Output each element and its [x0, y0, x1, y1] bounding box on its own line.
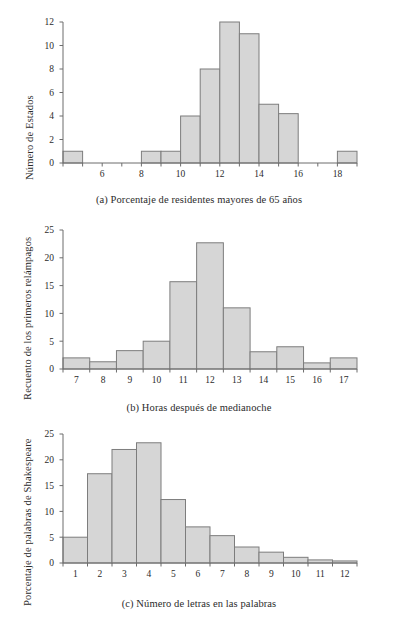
histogram-bar: [330, 358, 357, 369]
x-tick-label: 12: [340, 569, 350, 579]
x-tick-label: 16: [312, 375, 322, 385]
histogram-bar: [181, 116, 201, 163]
x-tick-label: 8: [139, 169, 144, 179]
histogram-bar: [137, 443, 162, 563]
histogram-bar: [259, 104, 279, 163]
histogram-bar: [143, 341, 170, 369]
x-tick-label: 11: [316, 569, 325, 579]
histogram-c: 0510152025123456789101112: [0, 420, 398, 592]
plot-area-c: Porcentaje de palabras de Shakespeare 05…: [0, 420, 398, 592]
x-tick-label: 3: [122, 569, 127, 579]
x-tick-label: 2: [97, 569, 102, 579]
x-tick-label: 6: [195, 569, 200, 579]
x-tick-label: 5: [171, 569, 176, 579]
y-tick-label: 25: [45, 429, 55, 439]
y-tick-label: 0: [49, 158, 54, 168]
x-tick-label: 14: [259, 375, 269, 385]
x-tick-label: 11: [179, 375, 188, 385]
plot-area-b: Recuento de los primeros relámpagos 0510…: [0, 212, 398, 398]
histogram-bar: [63, 537, 88, 563]
histogram-bar: [90, 362, 117, 369]
y-tick-label: 5: [49, 337, 54, 347]
y-tick-label: 0: [49, 364, 54, 374]
y-tick-label: 10: [45, 41, 55, 51]
x-tick-label: 9: [127, 375, 132, 385]
histogram-bar: [210, 536, 235, 563]
chart-panel-c: Porcentaje de palabras de Shakespeare 05…: [0, 420, 398, 620]
caption-b: (b) Horas después de medianoche: [0, 402, 398, 413]
histogram-bar: [161, 500, 186, 563]
histogram-bar: [161, 151, 181, 163]
y-tick-label: 20: [45, 253, 55, 263]
y-tick-label: 8: [49, 64, 54, 74]
histogram-bar: [197, 243, 224, 369]
x-tick-label: 17: [339, 375, 349, 385]
histogram-bar: [223, 308, 250, 369]
figure-page: Número de Estados 024681012681012141618 …: [0, 0, 398, 623]
histogram-bar: [116, 351, 143, 369]
plot-area-a: Número de Estados 024681012681012141618: [0, 0, 398, 192]
caption-c: (c) Número de letras en las palabras: [0, 598, 398, 609]
x-tick-label: 8: [244, 569, 249, 579]
x-tick-label: 16: [293, 169, 303, 179]
y-tick-label: 12: [45, 17, 55, 27]
x-tick-label: 15: [285, 375, 295, 385]
y-tick-label: 10: [45, 507, 55, 517]
y-tick-label: 0: [49, 558, 54, 568]
histogram-bar: [284, 557, 309, 563]
x-tick-label: 13: [232, 375, 242, 385]
histogram-bar: [200, 69, 220, 163]
y-tick-label: 4: [49, 111, 54, 121]
y-tick-label: 15: [45, 481, 55, 491]
x-tick-label: 4: [146, 569, 151, 579]
histogram-bar: [63, 151, 83, 163]
histogram-bar: [220, 22, 240, 163]
histogram-bar: [112, 449, 137, 563]
chart-panel-b: Recuento de los primeros relámpagos 0510…: [0, 212, 398, 420]
y-tick-label: 15: [45, 281, 55, 291]
y-tick-label: 25: [45, 225, 55, 235]
y-tick-label: 2: [49, 135, 54, 145]
caption-a: (a) Porcentaje de residentes mayores de …: [0, 194, 398, 205]
histogram-a: 024681012681012141618: [0, 0, 398, 192]
histogram-bar: [88, 474, 113, 563]
y-tick-label: 6: [49, 88, 54, 98]
histogram-bar: [239, 34, 259, 163]
y-tick-label: 5: [49, 533, 54, 543]
x-tick-label: 12: [215, 169, 225, 179]
x-tick-label: 14: [254, 169, 264, 179]
histogram-bar: [186, 527, 211, 563]
x-tick-label: 9: [269, 569, 274, 579]
histogram-bar: [250, 352, 277, 369]
histogram-bar: [304, 363, 331, 369]
histogram-bar: [277, 347, 304, 369]
histogram-bar: [259, 552, 284, 563]
x-tick-label: 1: [73, 569, 78, 579]
histogram-b: 05101520257891011121314151617: [0, 212, 398, 398]
x-tick-label: 12: [205, 375, 215, 385]
y-tick-label: 20: [45, 455, 55, 465]
histogram-bar: [141, 151, 161, 163]
histogram-bar: [279, 114, 299, 163]
histogram-bar: [235, 547, 260, 563]
histogram-bar: [337, 151, 357, 163]
x-tick-label: 10: [152, 375, 162, 385]
histogram-bar: [170, 282, 197, 369]
chart-panel-a: Número de Estados 024681012681012141618 …: [0, 0, 398, 212]
x-tick-label: 7: [220, 569, 225, 579]
y-tick-label: 10: [45, 309, 55, 319]
histogram-bar: [63, 358, 90, 369]
x-tick-label: 8: [101, 375, 106, 385]
x-tick-label: 6: [100, 169, 105, 179]
x-tick-label: 10: [176, 169, 186, 179]
x-tick-label: 18: [333, 169, 343, 179]
x-tick-label: 10: [291, 569, 301, 579]
x-tick-label: 7: [74, 375, 79, 385]
